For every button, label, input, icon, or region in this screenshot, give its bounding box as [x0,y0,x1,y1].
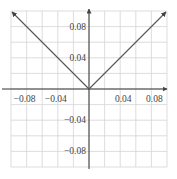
x-tick-label: 0.08 [146,94,163,104]
y-tick-label: −0.04 [64,115,86,125]
y-tick-label: 0.04 [69,53,86,63]
x-tick-label: −0.04 [45,94,67,104]
x-tick-label: 0.04 [115,94,132,104]
y-tick-label: −0.08 [64,146,86,156]
function-graph: −0.08−0.040.040.080.080.04−0.04−0.08 [0,0,177,179]
x-tick-label: −0.08 [14,94,36,104]
function-line [89,12,166,89]
y-tick-label: 0.08 [69,22,86,32]
